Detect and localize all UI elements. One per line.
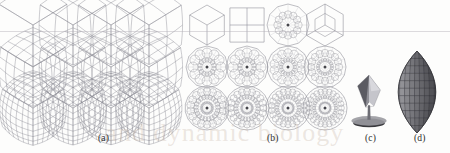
figure-artwork <box>0 0 450 153</box>
panel-caption-a: (a) <box>98 133 109 143</box>
panel-caption-b: (b) <box>267 133 279 143</box>
panel-caption-c: (c) <box>365 133 376 143</box>
figure-panel-grid: and dynamic biology (a) (b) (c) (d) <box>0 0 450 153</box>
panel-caption-d: (d) <box>414 133 426 143</box>
